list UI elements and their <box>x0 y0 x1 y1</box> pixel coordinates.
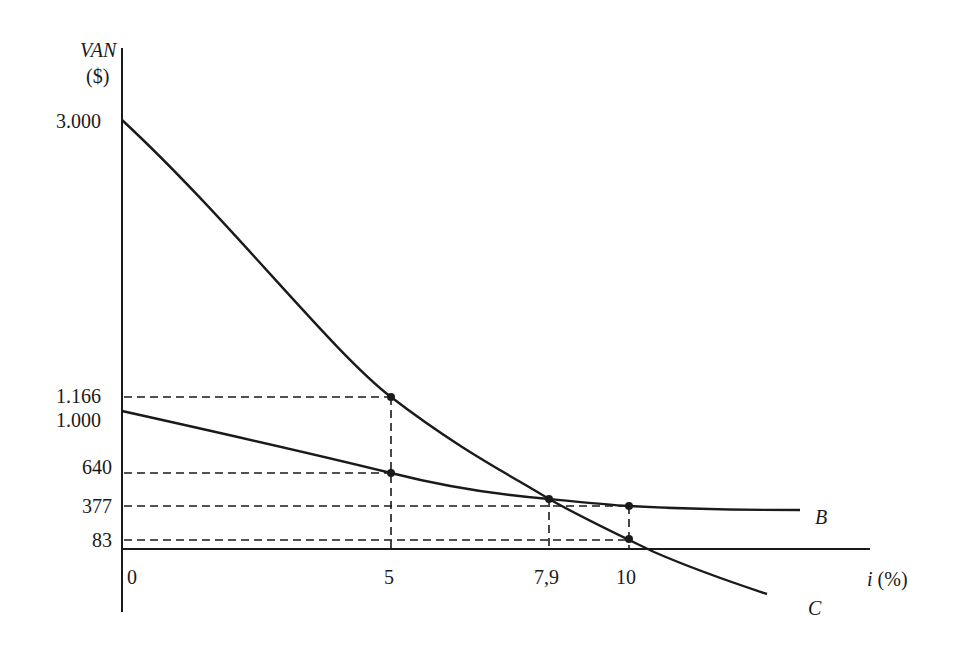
series-label-b: B <box>815 507 827 527</box>
y-axis-title: VAN <box>80 40 116 60</box>
y-tick-label: 1.166 <box>56 386 101 406</box>
y-tick-label: 377 <box>82 496 112 516</box>
x-axis-title: i (%) <box>867 569 908 589</box>
y-tick-label: 1.000 <box>56 410 101 430</box>
marked-points <box>387 393 633 543</box>
series-label-c: C <box>808 598 821 618</box>
y-tick-label: 640 <box>82 457 112 477</box>
y-tick-label: 83 <box>92 530 112 550</box>
curve-b <box>122 411 800 510</box>
x-tick-label: 5 <box>384 567 394 587</box>
x-tick-label: 7,9 <box>534 567 559 587</box>
x-tick-label: 10 <box>616 567 636 587</box>
npv-chart <box>0 0 967 647</box>
dashed-guides <box>124 397 629 549</box>
y-tick-label: 3.000 <box>56 111 101 131</box>
y-axis-unit: ($) <box>86 66 109 86</box>
x-origin-label: 0 <box>127 567 137 587</box>
curve-c <box>122 120 767 594</box>
